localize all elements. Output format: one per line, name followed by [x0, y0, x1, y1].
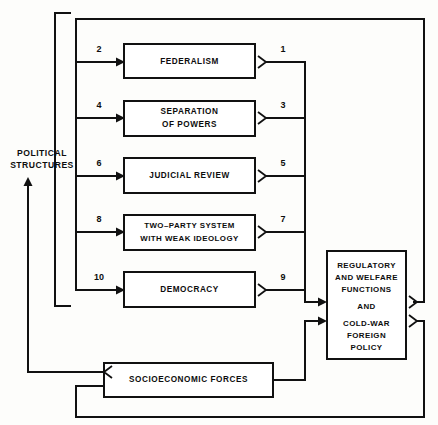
outcome-label-line7: POLICY	[350, 343, 382, 352]
outcome-label-line4: AND	[357, 302, 375, 311]
box-federalism-label: FEDERALISM	[160, 57, 219, 66]
edge-number-3: 3	[280, 100, 285, 110]
edge-number-9: 9	[280, 272, 285, 282]
box-two-party-system-label-line1: TWO–PARTY SYSTEM	[144, 221, 235, 230]
outcome-label-line2: AND WELFARE	[335, 273, 398, 282]
row-democracy: 10 DEMOCRACY 9	[76, 272, 305, 307]
outcome-label-line3: FUNCTIONS	[341, 285, 391, 294]
outcome-label-line1: REGULATORY	[337, 261, 396, 270]
forces-label: SOCIOECONOMIC FORCES	[129, 375, 248, 384]
edge-number-4: 4	[96, 100, 101, 110]
outcome-box-group: REGULATORY AND WELFARE FUNCTIONS AND COL…	[327, 251, 406, 359]
chevron-out-federalism	[258, 56, 266, 68]
outcome-label-line6: FOREIGN	[347, 331, 386, 340]
row-two-party-system: 8 TWO–PARTY SYSTEM WITH WEAK IDEOLOGY 7	[76, 214, 305, 250]
chevron-outcome-lower	[409, 315, 417, 327]
arrowhead-political-structures-up	[24, 177, 33, 186]
forces-box-group: SOCIOECONOMIC FORCES	[104, 317, 327, 398]
chevron-out-judicial-review	[258, 170, 266, 182]
political-structures-label-line1: POLITICAL	[17, 148, 67, 158]
structures-upward-feedback-line	[28, 186, 104, 372]
diagram-canvas: 2 FEDERALISM 1 4 SEPARATION OF POWERS 3 …	[0, 0, 438, 425]
box-two-party-system-label-line2: WITH WEAK IDEOLOGY	[140, 234, 239, 243]
arrowhead-to-outcome-lower	[318, 317, 327, 326]
edge-number-5: 5	[280, 158, 285, 168]
outcome-label-line5: COLD-WAR	[343, 319, 390, 328]
box-separation-of-powers-label-line1: SEPARATION	[161, 107, 219, 116]
row-separation-of-powers: 4 SEPARATION OF POWERS 3	[76, 100, 305, 136]
box-judicial-review-label: JUDICIAL REVIEW	[149, 171, 229, 180]
edge-number-2: 2	[96, 44, 101, 54]
chevron-out-two-party-system	[258, 226, 266, 238]
box-separation-of-powers-label-line2: OF POWERS	[162, 120, 217, 129]
political-structures-label-line2: STRUCTURES	[10, 160, 74, 170]
chevron-out-democracy	[258, 284, 266, 296]
arrowhead-to-outcome-upper	[318, 298, 327, 307]
forces-to-outcome-path	[273, 321, 318, 380]
chevron-out-separation-of-powers	[258, 112, 266, 124]
flow-diagram: 2 FEDERALISM 1 4 SEPARATION OF POWERS 3 …	[0, 0, 438, 425]
edge-number-1: 1	[280, 44, 285, 54]
edge-number-8: 8	[96, 214, 101, 224]
row-judicial-review: 6 JUDICIAL REVIEW 5	[76, 158, 305, 193]
edge-number-10: 10	[94, 272, 104, 282]
row-federalism: 2 FEDERALISM 1	[76, 44, 305, 78]
political-structures-label: POLITICAL STRUCTURES	[10, 148, 74, 170]
box-democracy-label: DEMOCRACY	[160, 285, 219, 294]
edge-number-7: 7	[280, 214, 285, 224]
structures-output-collector	[305, 62, 327, 307]
edge-number-6: 6	[96, 158, 101, 168]
